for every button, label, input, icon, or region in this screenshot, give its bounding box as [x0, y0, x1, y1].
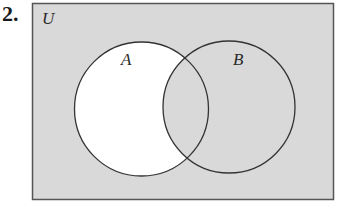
- set-a-label: A: [120, 50, 132, 69]
- venn-diagram: U A B: [0, 0, 340, 201]
- universe-label: U: [42, 9, 56, 28]
- set-b-label: B: [233, 50, 244, 69]
